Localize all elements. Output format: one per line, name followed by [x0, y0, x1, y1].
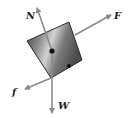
- block: [27, 22, 82, 78]
- weight-force-label: W: [58, 100, 71, 111]
- applied-force-label: F: [113, 10, 122, 21]
- friction-force-label: f: [11, 86, 18, 97]
- diagram-canvas: N F f W: [0, 0, 129, 118]
- free-body-diagram: N F f W: [0, 0, 129, 118]
- normal-force-label: N: [25, 10, 36, 21]
- center-of-mass-dot: [49, 48, 54, 53]
- contact-point-dot: [67, 64, 71, 68]
- applied-force-arrow: [75, 15, 111, 35]
- friction-force-arrow: [25, 78, 51, 89]
